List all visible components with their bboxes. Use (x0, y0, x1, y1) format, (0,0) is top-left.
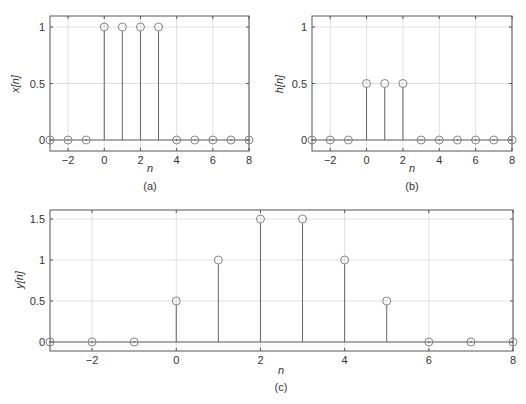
ylabel-a: x[n] (9, 74, 21, 94)
x-tick-label: 4 (174, 154, 180, 166)
figure-canvas: −20246800.51 −20246800.51 −20246800.511.… (0, 0, 526, 404)
x-tick-label: 4 (342, 354, 348, 366)
x-tick-label: −2 (86, 354, 99, 366)
plot-panel-a: −20246800.51 (30, 16, 253, 166)
y-tick-label: 0 (301, 134, 307, 146)
y-tick-label: 0 (39, 336, 45, 348)
y-tick-label: 1 (39, 254, 45, 266)
x-tick-label: 6 (210, 154, 216, 166)
x-tick-label: 8 (246, 154, 252, 166)
x-tick-label: 4 (436, 154, 442, 166)
y-tick-label: 0.5 (292, 78, 307, 90)
y-tick-label: 1 (39, 21, 45, 33)
x-tick-label: 0 (173, 354, 179, 366)
ylabel-c: y[n] (13, 270, 25, 290)
ylabel-b: h[n] (273, 74, 285, 93)
xlabel-c: n (278, 364, 284, 376)
x-tick-label: −2 (324, 154, 337, 166)
plot-frame (50, 210, 513, 351)
y-tick-label: 0 (39, 134, 45, 146)
y-tick-label: 1 (301, 21, 307, 33)
plot-panel-c: −20246800.511.5 (30, 210, 517, 366)
y-tick-label: 0.5 (30, 78, 45, 90)
x-tick-label: 2 (400, 154, 406, 166)
x-tick-label: −2 (62, 154, 75, 166)
x-tick-label: 6 (473, 154, 479, 166)
xlabel-b: n (409, 162, 415, 174)
caption-b: (b) (405, 180, 418, 192)
x-tick-label: 2 (137, 154, 143, 166)
y-tick-label: 1.5 (30, 213, 45, 225)
x-tick-label: 8 (509, 154, 515, 166)
xlabel-a: n (147, 162, 153, 174)
caption-a: (a) (143, 180, 156, 192)
x-tick-label: 0 (101, 154, 107, 166)
caption-c: (c) (275, 381, 288, 393)
plot-panel-b: −20246800.51 (292, 16, 516, 166)
x-tick-label: 8 (510, 354, 516, 366)
x-tick-label: 2 (257, 354, 263, 366)
x-tick-label: 0 (363, 154, 369, 166)
x-tick-label: 6 (426, 354, 432, 366)
y-tick-label: 0.5 (30, 295, 45, 307)
